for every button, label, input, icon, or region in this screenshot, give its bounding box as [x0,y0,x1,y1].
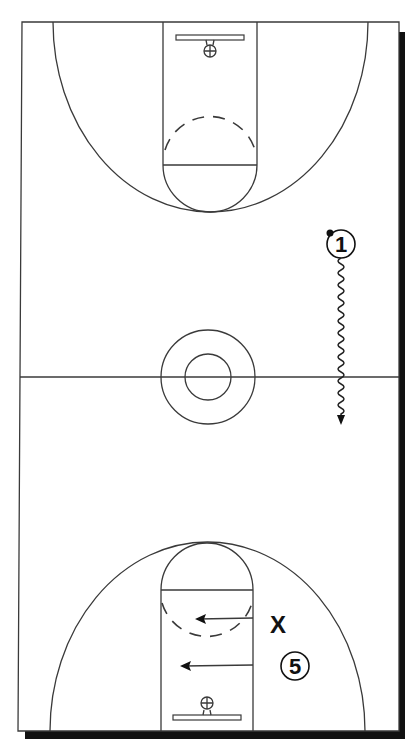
player-5-label: 5 [289,654,301,679]
court-shadow-bottom [25,731,405,739]
ball-icon [327,230,334,237]
court-shadow-right [399,32,405,739]
player-1-marker: 1 [327,230,356,259]
basketball-court-diagram: 1 X 5 [0,0,413,749]
player-5-marker: 5 [281,652,309,680]
bottom-backboard [173,715,241,720]
top-backboard [176,35,244,40]
defender-x-label: X [270,611,286,638]
bottom-rim-icon [201,697,213,709]
top-rim-icon [204,45,216,57]
player-1-label: 1 [335,232,347,257]
